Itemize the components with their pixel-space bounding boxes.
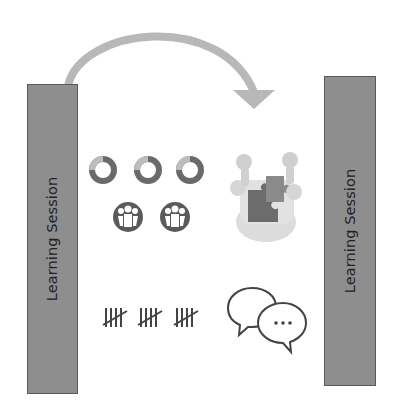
cycle-ring-icon (179, 159, 201, 181)
people-circle-icon (113, 202, 143, 232)
learning-cycle-diagram: Learning Session Learning Session (0, 0, 402, 418)
left-session-label: Learning Session (45, 177, 61, 301)
tally-marks-icon (138, 308, 162, 327)
right-learning-session-bar: Learning Session (324, 76, 376, 386)
people-circle-icon (160, 202, 190, 232)
cycle-ring-icon (92, 159, 114, 181)
puzzle-team-icon (230, 152, 302, 242)
curved-arrow (68, 36, 275, 109)
tally-marks-icon (174, 308, 198, 327)
tally-marks-icon (103, 308, 127, 327)
right-session-label: Learning Session (342, 169, 358, 293)
cycle-ring-icon (137, 159, 159, 181)
chat-bubbles-icon (228, 288, 306, 352)
left-learning-session-bar: Learning Session (27, 84, 78, 394)
